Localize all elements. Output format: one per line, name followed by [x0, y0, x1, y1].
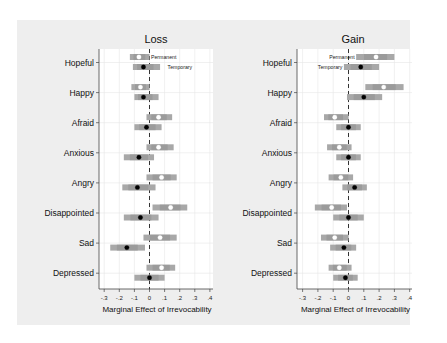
- permanent-marker: [159, 266, 163, 270]
- temporary-marker: [135, 185, 139, 189]
- permanent-marker: [381, 85, 385, 89]
- panel-gain: GainHopefulHappyAfraidAnxiousAngryDisapp…: [242, 33, 412, 314]
- category-label-hopeful: Hopeful: [65, 58, 94, 68]
- legend-permanent-label: Permanent: [329, 54, 355, 60]
- temporary-marker: [343, 276, 347, 280]
- legend-temporary-label: Temporary: [318, 64, 343, 70]
- temporary-marker: [352, 185, 356, 189]
- temporary-marker: [125, 245, 129, 249]
- temporary-marker: [138, 215, 142, 219]
- permanent-marker: [333, 115, 337, 119]
- panel-title: Gain: [341, 33, 364, 45]
- x-tick-label: -.2: [116, 295, 124, 301]
- permanent-marker: [156, 145, 160, 149]
- permanent-marker: [337, 266, 341, 270]
- temporary-marker: [346, 215, 350, 219]
- category-label-anxious: Anxious: [64, 148, 94, 158]
- permanent-marker: [339, 175, 343, 179]
- panel-title: Loss: [144, 33, 168, 45]
- x-axis-title: Marginal Effect of Irrevocability: [102, 305, 211, 314]
- permanent-marker: [329, 205, 333, 209]
- x-tick-label: .2: [177, 295, 183, 301]
- x-tick-label: .2: [377, 295, 383, 301]
- permanent-marker: [337, 145, 341, 149]
- x-tick-label: .3: [392, 295, 398, 301]
- temporary-marker: [346, 125, 350, 129]
- temporary-marker: [362, 95, 366, 99]
- category-label-anxious: Anxious: [262, 148, 292, 158]
- x-tick-label: -.1: [131, 295, 139, 301]
- x-tick-label: 0: [347, 295, 351, 301]
- category-label-hopeful: Hopeful: [263, 58, 292, 68]
- category-label-depressed: Depressed: [251, 268, 292, 278]
- temporary-marker: [144, 125, 148, 129]
- permanent-marker: [138, 85, 142, 89]
- x-tick-label: .1: [162, 295, 168, 301]
- permanent-marker: [156, 115, 160, 119]
- temporary-marker: [137, 155, 141, 159]
- temporary-marker: [141, 95, 145, 99]
- temporary-marker: [342, 245, 346, 249]
- x-tick-label: .4: [207, 295, 213, 301]
- permanent-marker: [158, 235, 162, 239]
- category-label-depressed: Depressed: [53, 268, 94, 278]
- category-label-happy: Happy: [267, 88, 292, 98]
- permanent-marker: [374, 55, 378, 59]
- category-label-angry: Angry: [270, 178, 293, 188]
- x-tick-label: -.2: [314, 295, 322, 301]
- permanent-marker: [333, 235, 337, 239]
- x-tick-label: -.3: [101, 295, 109, 301]
- category-label-disappointed: Disappointed: [242, 208, 292, 218]
- category-label-disappointed: Disappointed: [44, 208, 94, 218]
- x-tick-label: -.1: [330, 295, 338, 301]
- x-tick-label: .3: [192, 295, 198, 301]
- x-tick-label: -.3: [299, 295, 307, 301]
- x-tick-label: 0: [148, 295, 152, 301]
- permanent-marker: [168, 205, 172, 209]
- plot-area: [99, 49, 213, 289]
- category-label-afraid: Afraid: [72, 118, 94, 128]
- category-label-sad: Sad: [277, 238, 292, 248]
- x-axis-title: Marginal Effect of Irrevocability: [301, 305, 410, 314]
- panel-loss: LossHopefulHappyAfraidAnxiousAngryDisapp…: [44, 33, 213, 314]
- x-tick-label: .1: [361, 295, 367, 301]
- temporary-marker: [141, 65, 145, 69]
- permanent-marker: [137, 55, 141, 59]
- category-label-angry: Angry: [72, 178, 95, 188]
- permanent-marker: [159, 175, 163, 179]
- x-tick-label: .4: [407, 295, 413, 301]
- category-label-sad: Sad: [79, 238, 94, 248]
- category-label-afraid: Afraid: [270, 118, 292, 128]
- coefficient-plot-figure: LossHopefulHappyAfraidAnxiousAngryDisapp…: [0, 0, 447, 343]
- legend-permanent-label: Permanent: [151, 54, 177, 60]
- temporary-marker: [359, 65, 363, 69]
- temporary-marker: [147, 276, 151, 280]
- temporary-marker: [346, 155, 350, 159]
- category-label-happy: Happy: [69, 88, 94, 98]
- legend-temporary-label: Temporary: [168, 64, 193, 70]
